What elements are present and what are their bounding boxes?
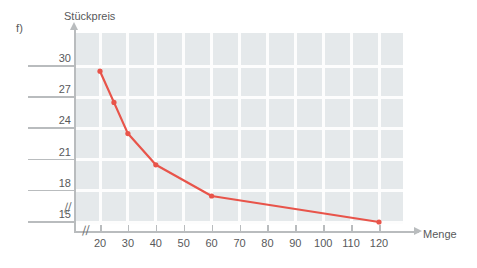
x-tick-mark — [323, 225, 325, 231]
x-tick-mark — [240, 225, 242, 231]
x-tick-mark — [128, 225, 130, 231]
x-tick-label: 70 — [233, 237, 245, 249]
x-tick-mark — [156, 225, 158, 231]
x-tick-label: 20 — [94, 237, 106, 249]
x-tick-mark — [212, 225, 214, 231]
x-tick-mark — [184, 225, 186, 231]
x-tick-label: 110 — [342, 237, 360, 249]
x-tick-label: 120 — [370, 237, 388, 249]
x-tick-label: 60 — [205, 237, 217, 249]
x-tick-mark — [379, 225, 381, 231]
x-tick-label: 50 — [178, 237, 190, 249]
x-tick-mark — [100, 225, 102, 231]
x-tick-mark — [295, 225, 297, 231]
x-tick-mark — [267, 225, 269, 231]
x-axis-ticks: 2030405060708090100110120 — [0, 0, 477, 268]
x-tick-label: 80 — [261, 237, 273, 249]
x-tick-mark — [351, 225, 353, 231]
x-tick-label: 40 — [150, 237, 162, 249]
chart-figure: f) Stückpreis Menge 302724211815 2030405… — [0, 0, 477, 268]
x-tick-label: 90 — [289, 237, 301, 249]
x-tick-label: 30 — [122, 237, 134, 249]
x-tick-label: 100 — [314, 237, 332, 249]
